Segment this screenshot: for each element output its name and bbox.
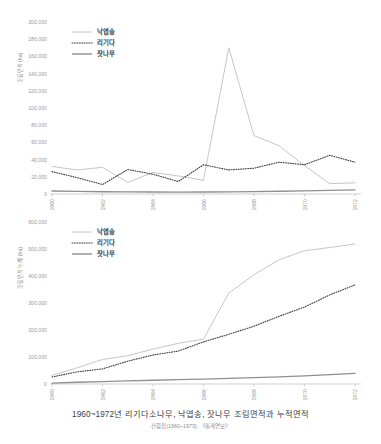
y-axis-title: 조림면적 누계 (ha) xyxy=(16,247,24,289)
legend-label-리기다: 리기다 xyxy=(97,38,115,47)
y-axis-tick-label: 20,000 xyxy=(31,174,47,180)
series-line-잣나무 xyxy=(52,373,355,383)
x-axis-tick-label: 1966 xyxy=(201,199,207,211)
y-axis-title: 조림면적 (ha) xyxy=(16,52,24,83)
y-axis-tick-label: 100,000 xyxy=(28,105,47,111)
x-axis-tick-label: 1968 xyxy=(251,199,257,211)
x-axis-tick-label: 1970 xyxy=(302,389,308,401)
legend-label-잣나무: 잣나무 xyxy=(97,249,115,258)
y-axis-tick-label: 200,000 xyxy=(28,19,47,25)
chart-annual-svg: 020,00040,00060,00080,000100,000120,0001… xyxy=(0,10,381,218)
series-line-낙엽송 xyxy=(52,244,355,375)
y-axis-tick-label: 400,000 xyxy=(28,273,47,279)
x-axis-tick-label: 1962 xyxy=(100,389,106,401)
y-axis-tick-label: 80,000 xyxy=(31,122,47,128)
y-axis-tick-label: 300,000 xyxy=(28,300,47,306)
x-axis-tick-label: 1964 xyxy=(150,199,156,211)
x-axis-tick-label: 1962 xyxy=(100,199,106,211)
figure-afforestation: 020,00040,00060,00080,000100,000120,0001… xyxy=(0,0,381,444)
x-axis-tick-label: 1972 xyxy=(352,389,358,401)
x-axis-tick-label: 1968 xyxy=(251,389,257,401)
chart-annual-afforestation: 020,00040,00060,00080,000100,000120,0001… xyxy=(0,10,381,218)
y-axis-tick-label: 60,000 xyxy=(31,139,47,145)
y-axis-tick-label: 500,000 xyxy=(28,246,47,252)
caption-source: 산림청(1960~1973), 《통계연보》 xyxy=(0,421,381,432)
chart-cumulative-afforestation: 0100,000200,000300,000400,000500,000600,… xyxy=(0,212,381,410)
x-axis-tick-label: 1970 xyxy=(302,199,308,211)
series-line-리기다 xyxy=(52,285,355,377)
legend-label-잣나무: 잣나무 xyxy=(97,49,115,58)
legend-label-리기다: 리기다 xyxy=(97,238,115,247)
y-axis-tick-label: 0 xyxy=(44,381,47,387)
y-axis-tick-label: 180,000 xyxy=(28,36,47,42)
series-line-잣나무 xyxy=(52,190,355,192)
legend-label-낙엽송: 낙엽송 xyxy=(97,27,115,36)
y-axis-tick-label: 600,000 xyxy=(28,219,47,225)
y-axis-tick-label: 200,000 xyxy=(28,327,47,333)
y-axis-tick-label: 40,000 xyxy=(31,157,47,163)
x-axis-tick-label: 1972 xyxy=(352,199,358,211)
x-axis-tick-label: 1964 xyxy=(150,389,156,401)
y-axis-tick-label: 160,000 xyxy=(28,53,47,59)
x-axis-tick-label: 1960 xyxy=(49,199,55,211)
x-axis-tick-label: 1966 xyxy=(201,389,207,401)
legend-label-낙엽송: 낙엽송 xyxy=(97,227,115,236)
y-axis-tick-label: 140,000 xyxy=(28,71,47,77)
y-axis-tick-label: 120,000 xyxy=(28,88,47,94)
figure-caption: 1960~1972년 리기다소나무, 낙엽송, 잣나무 조림면적과 누적면적 산… xyxy=(0,408,381,432)
x-axis-tick-label: 1960 xyxy=(49,389,55,401)
y-axis-tick-label: 100,000 xyxy=(28,354,47,360)
chart-cumulative-svg: 0100,000200,000300,000400,000500,000600,… xyxy=(0,212,381,410)
y-axis-tick-label: 0 xyxy=(44,191,47,197)
caption-title: 1960~1972년 리기다소나무, 낙엽송, 잣나무 조림면적과 누적면적 xyxy=(0,408,381,421)
